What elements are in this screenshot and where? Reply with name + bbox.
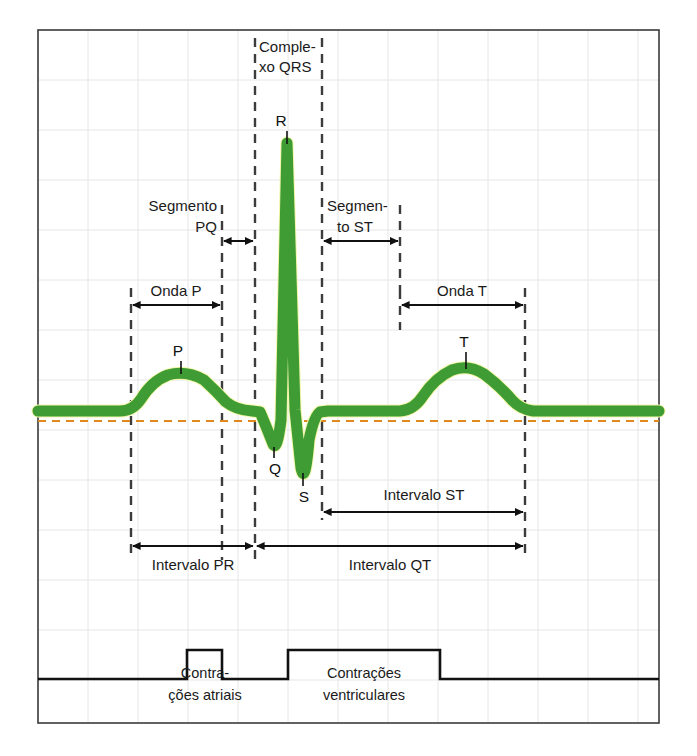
qrs-complex-label-line1: Comple- [259,38,316,55]
interval-st-label: Intervalo ST [384,486,465,503]
segment-pq-label-line1: Segmento [149,197,217,214]
point-label-t: T [459,333,469,350]
atrial-contraction-label-line1: Contra- [181,665,230,681]
wave-p-label: Onda P [151,282,202,299]
interval-qt-label: Intervalo QT [349,556,432,573]
segment-st-label-line2: to ST [337,218,373,235]
interval-pr-label: Intervalo PR [152,556,235,573]
point-label-s: S [299,488,309,505]
ventricular-contraction-label-line1: Contrações [327,665,401,681]
atrial-contraction-label-line2: ções atriais [168,687,241,703]
ventricular-contraction-label-line2: ventriculares [323,687,405,703]
point-label-q: Q [269,460,281,477]
page-background [0,0,697,756]
ecg-diagram: Comple- xo QRS R Segmento PQ Segmen- to … [0,0,697,756]
point-label-p: P [173,342,183,359]
qrs-complex-label-line2: xo QRS [259,58,312,75]
wave-t-label: Onda T [437,282,487,299]
ecg-canvas: Comple- xo QRS R Segmento PQ Segmen- to … [0,0,697,756]
segment-pq-label-line2: PQ [195,218,217,235]
point-label-r: R [275,112,286,129]
segment-st-label-line1: Segmen- [327,197,388,214]
